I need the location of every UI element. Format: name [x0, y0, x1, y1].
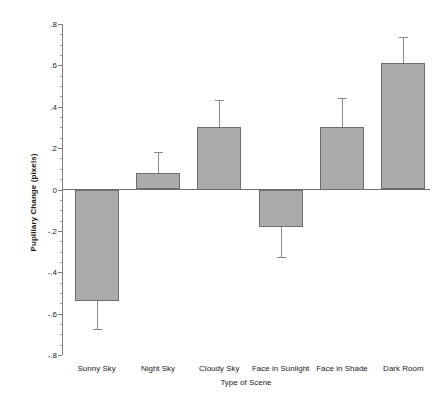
x-axis-category-label: Dark Room: [383, 364, 423, 373]
bar: [75, 190, 119, 302]
y-axis-minor-tick: [60, 76, 62, 77]
error-bar-line: [403, 37, 404, 63]
y-axis-minor-tick: [60, 345, 62, 346]
y-axis-tick: [58, 24, 62, 25]
y-axis-tick: [58, 107, 62, 108]
y-axis-minor-tick: [60, 324, 62, 325]
y-axis-tick-label: -.2: [48, 226, 57, 235]
y-axis-minor-tick: [60, 138, 62, 139]
y-axis-tick: [58, 148, 62, 149]
bar: [320, 127, 364, 189]
error-bar-line: [281, 227, 282, 257]
bar: [259, 190, 303, 227]
x-axis-category-label: Night Sky: [141, 364, 175, 373]
y-axis-tick: [58, 314, 62, 315]
error-bar-cap: [215, 100, 224, 101]
y-axis-minor-tick: [60, 117, 62, 118]
y-axis-tick: [58, 272, 62, 273]
y-axis-title: Pupillary Change (pixels): [29, 118, 38, 288]
y-axis-minor-tick: [60, 96, 62, 97]
error-bar-cap: [277, 257, 286, 258]
bar: [197, 127, 241, 189]
y-axis-minor-tick: [60, 179, 62, 180]
y-axis-tick-label: .2: [50, 144, 57, 153]
y-axis-tick: [58, 231, 62, 232]
y-axis-minor-tick: [60, 210, 62, 211]
y-axis-minor-tick: [60, 45, 62, 46]
y-axis-tick-label: -.4: [48, 268, 57, 277]
y-axis-minor-tick: [60, 169, 62, 170]
y-axis-minor-tick: [60, 221, 62, 222]
error-bar-line: [158, 152, 159, 173]
y-axis-minor-tick: [60, 158, 62, 159]
error-bar-cap: [93, 329, 102, 330]
y-axis-tick-label: .8: [50, 20, 57, 29]
y-axis-tick-label: .4: [50, 102, 57, 111]
x-axis-category-label: Cloudy Sky: [199, 364, 239, 373]
y-axis-tick-label: -.8: [48, 351, 57, 360]
y-axis-minor-tick: [60, 252, 62, 253]
y-axis-tick-label: .6: [50, 61, 57, 70]
x-axis-category-label: Sunny Sky: [78, 364, 116, 373]
y-axis-tick: [58, 355, 62, 356]
error-bar-cap: [338, 98, 347, 99]
x-axis-title: Type of Scene: [62, 378, 430, 387]
y-axis-tick-label: -.6: [48, 309, 57, 318]
y-axis-minor-tick: [60, 34, 62, 35]
y-axis-minor-tick: [60, 334, 62, 335]
y-axis-minor-tick: [60, 241, 62, 242]
y-axis-minor-tick: [60, 303, 62, 304]
y-axis-minor-tick: [60, 262, 62, 263]
y-axis-tick: [58, 190, 62, 191]
error-bar-line: [219, 100, 220, 128]
error-bar-line: [342, 98, 343, 127]
plot-area: .8.6.4.20-.2-.4-.6-.8Sunny SkyNight SkyC…: [62, 24, 430, 355]
bar: [136, 173, 180, 190]
bar-chart: Pupillary Change (pixels) .8.6.4.20-.2-.…: [0, 0, 444, 415]
x-axis-category-label: Face in Shade: [316, 364, 368, 373]
y-axis-tick-label: 0: [53, 185, 57, 194]
x-axis-category-label: Face in Sunlight: [252, 364, 309, 373]
y-axis-minor-tick: [60, 283, 62, 284]
bar: [381, 63, 425, 189]
y-axis-minor-tick: [60, 200, 62, 201]
error-bar-line: [97, 301, 98, 329]
error-bar-cap: [399, 37, 408, 38]
y-axis-minor-tick: [60, 86, 62, 87]
y-axis-minor-tick: [60, 127, 62, 128]
y-axis-minor-tick: [60, 293, 62, 294]
y-axis-minor-tick: [60, 55, 62, 56]
error-bar-cap: [154, 152, 163, 153]
y-axis-tick: [58, 65, 62, 66]
